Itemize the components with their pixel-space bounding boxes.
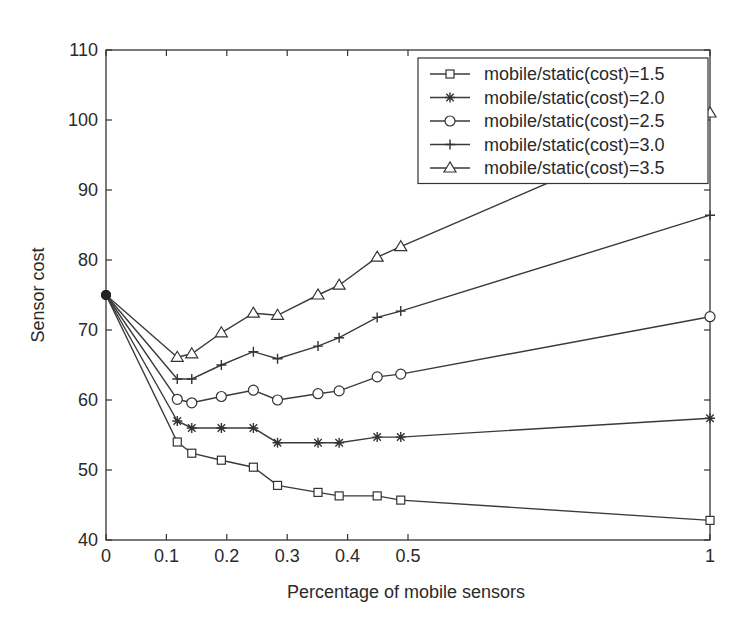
square-marker xyxy=(249,463,257,471)
star-marker xyxy=(396,432,406,442)
data-point xyxy=(706,516,714,524)
square-marker xyxy=(397,496,405,504)
square-marker xyxy=(335,492,343,500)
data-point xyxy=(313,389,323,399)
star-marker xyxy=(248,423,258,433)
circle-marker xyxy=(216,392,226,402)
data-point xyxy=(172,394,182,404)
star-marker xyxy=(313,438,323,448)
data-point xyxy=(335,492,343,500)
legend-marker xyxy=(445,93,455,103)
y-tick-label: 80 xyxy=(78,250,98,270)
x-axis-title: Percentage of mobile sensors xyxy=(287,582,525,602)
triangle-marker xyxy=(215,327,227,337)
y-tick-label: 40 xyxy=(78,530,98,550)
y-tick-label: 60 xyxy=(78,390,98,410)
x-tick-label: 0.4 xyxy=(335,546,360,566)
plus-marker xyxy=(248,347,258,357)
circle-marker xyxy=(313,389,323,399)
legend-label: mobile/static(cost)=2.5 xyxy=(484,111,665,131)
plus-marker xyxy=(396,306,406,316)
legend-marker xyxy=(445,116,455,126)
data-point xyxy=(273,395,283,405)
square-marker xyxy=(188,449,196,457)
x-tick-label: 0.5 xyxy=(395,546,420,566)
legend: mobile/static(cost)=1.5mobile/static(cos… xyxy=(418,58,708,184)
plus-marker xyxy=(372,312,382,322)
square-marker xyxy=(173,438,181,446)
data-point xyxy=(173,438,181,446)
triangle-marker xyxy=(395,241,407,251)
plus-marker xyxy=(313,341,323,351)
data-point xyxy=(187,423,197,433)
data-point xyxy=(396,306,406,316)
star-marker xyxy=(187,423,197,433)
line-chart: 00.10.20.30.40.51 405060708090100110 mob… xyxy=(0,0,755,634)
data-point xyxy=(705,312,715,322)
square-marker xyxy=(274,481,282,489)
data-point xyxy=(188,449,196,457)
data-point xyxy=(187,374,197,384)
triangle-marker xyxy=(371,251,383,261)
data-point xyxy=(333,279,345,289)
circle-marker xyxy=(445,116,455,126)
y-tick-label: 100 xyxy=(68,110,98,130)
square-marker xyxy=(706,516,714,524)
triangle-marker xyxy=(247,307,259,317)
data-point xyxy=(705,413,715,423)
triangle-marker xyxy=(312,289,324,299)
y-axis-title: Sensor cost xyxy=(28,247,48,342)
star-marker xyxy=(172,416,182,426)
circle-marker xyxy=(396,369,406,379)
star-marker xyxy=(216,423,226,433)
data-point xyxy=(372,432,382,442)
data-point xyxy=(215,327,227,337)
data-point xyxy=(273,438,283,448)
data-point xyxy=(249,463,257,471)
square-marker xyxy=(446,70,454,78)
star-marker xyxy=(372,432,382,442)
data-point xyxy=(396,432,406,442)
data-point xyxy=(373,492,381,500)
circle-marker xyxy=(372,372,382,382)
circle-marker xyxy=(334,386,344,396)
plus-marker xyxy=(187,374,197,384)
data-point xyxy=(334,333,344,343)
star-marker xyxy=(334,438,344,448)
origin-point xyxy=(102,291,111,300)
data-point xyxy=(372,312,382,322)
data-point xyxy=(216,360,226,370)
data-point xyxy=(172,416,182,426)
data-point xyxy=(397,496,405,504)
data-point xyxy=(705,210,715,220)
data-point xyxy=(248,423,258,433)
data-point xyxy=(334,438,344,448)
legend-label: mobile/static(cost)=3.0 xyxy=(484,135,665,155)
data-point xyxy=(248,385,258,395)
data-point xyxy=(313,438,323,448)
data-point xyxy=(248,347,258,357)
data-point xyxy=(273,354,283,364)
series-line xyxy=(106,295,710,403)
star-marker xyxy=(273,438,283,448)
x-tick-label: 0.2 xyxy=(214,546,239,566)
data-point xyxy=(247,307,259,317)
circle-marker xyxy=(172,394,182,404)
y-tick-label: 70 xyxy=(78,320,98,340)
star-marker xyxy=(705,413,715,423)
circle-marker xyxy=(273,395,283,405)
data-point xyxy=(312,289,324,299)
circle-marker xyxy=(248,385,258,395)
x-tick-label: 0.3 xyxy=(275,546,300,566)
legend-label: mobile/static(cost)=1.5 xyxy=(484,64,665,84)
triangle-marker xyxy=(186,348,198,358)
data-point xyxy=(274,481,282,489)
y-tick-label: 90 xyxy=(78,180,98,200)
x-tick-label: 0.1 xyxy=(154,546,179,566)
circle-marker xyxy=(187,398,197,408)
legend-label: mobile/static(cost)=2.0 xyxy=(484,88,665,108)
data-point xyxy=(216,423,226,433)
plus-marker xyxy=(705,210,715,220)
series-2 xyxy=(102,291,716,448)
plus-marker xyxy=(216,360,226,370)
